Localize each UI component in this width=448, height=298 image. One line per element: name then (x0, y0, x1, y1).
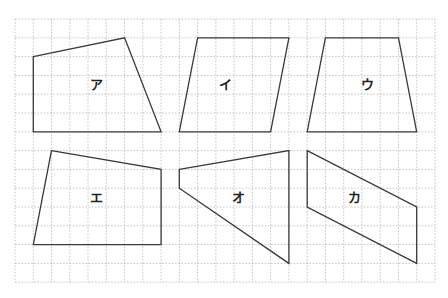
quadrilateral-shape: エ (33, 151, 161, 245)
quadrilateral-shape: ア (33, 38, 161, 132)
figure-canvas: アイウエオカ (0, 0, 448, 298)
shape-label: ウ (361, 77, 374, 92)
dotted-grid (15, 19, 435, 282)
shape-label: イ (219, 77, 232, 92)
quadrilateral-grid-figure: アイウエオカ ア イ ウ エ オ カ (0, 0, 448, 298)
shape-label: ア (90, 77, 103, 92)
shape-label: カ (348, 190, 361, 205)
shape-label: オ (232, 190, 245, 205)
shapes: アイウエオカ (33, 38, 416, 264)
shape-label: エ (90, 190, 103, 205)
